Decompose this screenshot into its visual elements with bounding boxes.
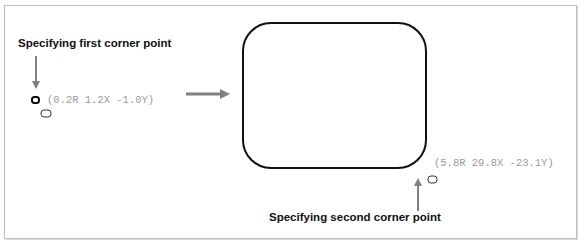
second-corner-coordinates: (5.8R 29.8X -23.1Y) [434,157,554,169]
first-corner-label: Specifying first corner point [18,37,171,49]
up-arrow-icon [414,178,422,211]
right-arrow-icon [186,89,230,99]
first-corner-coordinates: (0.2R 1.2X -1.0Y) [47,94,154,106]
rounded-rect-cursor-icon [41,110,51,117]
second-corner-label: Specifying second corner point [269,211,441,223]
second-corner-cursor-icon [428,176,437,183]
first-corner-cursor-icon [32,97,39,103]
down-arrow-icon [32,56,40,89]
rounded-rectangle-shape[interactable] [243,23,426,168]
